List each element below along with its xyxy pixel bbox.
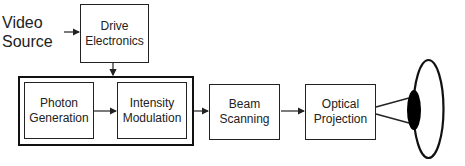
video-label-line1: Video (2, 13, 53, 32)
pupil-icon (407, 90, 421, 130)
photon-generation-block: PhotonGeneration (24, 82, 94, 139)
video-label-line2: Source (2, 32, 53, 51)
beam-scanning-block: BeamScanning (209, 84, 280, 140)
drive-electronics-block: DriveElectronics (80, 4, 149, 63)
drive-line2: Electronics (85, 34, 144, 49)
optical-line1: Optical (314, 97, 367, 112)
eye-icon (407, 60, 444, 158)
photon-line1: Photon (29, 96, 88, 111)
projection-ray-bottom (376, 114, 409, 123)
intensity-line2: Modulation (123, 111, 182, 126)
optical-projection-block: OpticalProjection (305, 84, 376, 140)
beam-line1: Beam (219, 97, 269, 112)
photon-line2: Generation (29, 111, 88, 126)
video-source-label: Video Source (2, 13, 53, 51)
projection-ray-top (376, 98, 409, 107)
intensity-line1: Intensity (123, 96, 182, 111)
drive-line1: Drive (85, 19, 144, 34)
beam-line2: Scanning (219, 112, 269, 127)
intensity-modulation-block: IntensityModulation (117, 82, 187, 139)
optical-line2: Projection (314, 112, 367, 127)
